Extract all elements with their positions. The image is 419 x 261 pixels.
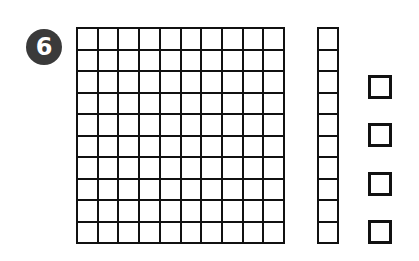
grid-cell (139, 114, 160, 136)
grid-cell (160, 114, 181, 136)
grid-cell (77, 28, 98, 50)
grid-cell (222, 157, 243, 179)
grid-cell (201, 157, 222, 179)
grid-cell (160, 179, 181, 201)
grid-cell (77, 136, 98, 158)
grid-cell (263, 200, 284, 222)
grid-cell (77, 114, 98, 136)
grid-cell (118, 71, 139, 93)
grid-cell (222, 136, 243, 158)
grid-cell (139, 136, 160, 158)
grid-cell (201, 179, 222, 201)
grid-cell (243, 157, 264, 179)
grid-cell (77, 157, 98, 179)
grid-cell (243, 71, 264, 93)
grid-cell (201, 114, 222, 136)
grid-cell (77, 200, 98, 222)
grid-cell (243, 136, 264, 158)
grid-cell (263, 179, 284, 201)
grid-cell (222, 28, 243, 50)
grid-cell (160, 71, 181, 93)
grid-cell (98, 114, 119, 136)
unit-cube-2 (368, 123, 392, 147)
grid-cell (181, 71, 202, 93)
grid-cell (98, 200, 119, 222)
grid-cell (160, 136, 181, 158)
grid-cell (139, 50, 160, 72)
rod-cell (318, 179, 338, 201)
rod-cell (318, 28, 338, 50)
grid-cell (118, 50, 139, 72)
grid-cell (181, 50, 202, 72)
grid-cell (181, 179, 202, 201)
grid-cell (118, 93, 139, 115)
grid-cell (263, 222, 284, 244)
unit-cube-3 (368, 172, 392, 196)
grid-cell (118, 157, 139, 179)
grid-cell (118, 222, 139, 244)
grid-cell (77, 222, 98, 244)
grid-cell (181, 28, 202, 50)
grid-cell (77, 50, 98, 72)
ten-rod-block (317, 27, 339, 244)
grid-cell (160, 157, 181, 179)
grid-cell (139, 93, 160, 115)
grid-cell (201, 200, 222, 222)
grid-cell (181, 114, 202, 136)
grid-cell (222, 179, 243, 201)
grid-cell (181, 157, 202, 179)
grid-cell (98, 28, 119, 50)
grid-cell (139, 157, 160, 179)
grid-cell (201, 50, 222, 72)
grid-cell (139, 179, 160, 201)
grid-cell (181, 136, 202, 158)
grid-cell (98, 222, 119, 244)
grid-cell (201, 28, 222, 50)
grid-cell (201, 136, 222, 158)
grid-cell (263, 28, 284, 50)
grid-cell (263, 50, 284, 72)
grid-cell (98, 50, 119, 72)
grid-cell (77, 179, 98, 201)
grid-cell (160, 222, 181, 244)
rod-cell (318, 222, 338, 244)
grid-cell (98, 71, 119, 93)
grid-cell (222, 222, 243, 244)
grid-cell (98, 157, 119, 179)
grid-cell (243, 114, 264, 136)
grid-cell (201, 222, 222, 244)
unit-cube-1 (368, 75, 392, 99)
grid-cell (118, 28, 139, 50)
rod-cell (318, 50, 338, 72)
grid-cell (139, 200, 160, 222)
grid-cell (181, 222, 202, 244)
grid-cell (222, 200, 243, 222)
grid-cell (243, 93, 264, 115)
grid-cell (160, 200, 181, 222)
rod-cell (318, 136, 338, 158)
problem-number-badge: 6 (26, 29, 62, 65)
grid-cell (243, 179, 264, 201)
grid-cell (181, 93, 202, 115)
rod-cell (318, 71, 338, 93)
grid-cell (98, 136, 119, 158)
grid-cell (263, 157, 284, 179)
grid-cell (222, 71, 243, 93)
grid-cell (263, 136, 284, 158)
grid-cell (222, 114, 243, 136)
grid-cell (118, 136, 139, 158)
grid-cell (222, 50, 243, 72)
rod-cell (318, 114, 338, 136)
rod-cell (318, 200, 338, 222)
grid-cell (263, 93, 284, 115)
rod-cell (318, 157, 338, 179)
grid-cell (243, 50, 264, 72)
grid-cell (201, 93, 222, 115)
rod-cell (318, 93, 338, 115)
grid-cell (201, 71, 222, 93)
grid-cell (160, 28, 181, 50)
hundred-flat-block (76, 27, 285, 244)
grid-cell (139, 71, 160, 93)
grid-cell (243, 222, 264, 244)
grid-cell (98, 179, 119, 201)
